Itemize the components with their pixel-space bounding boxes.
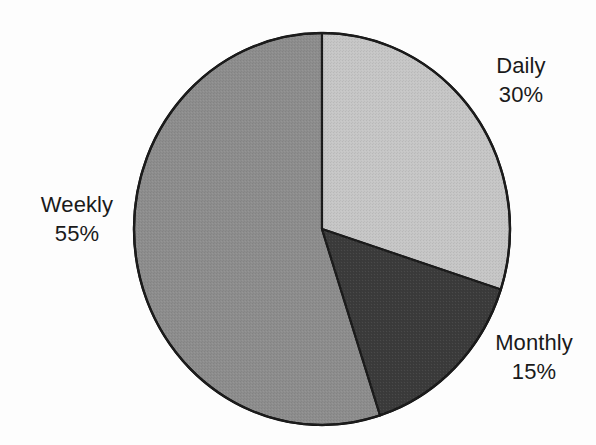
pie-label-daily-name: Daily [483, 52, 559, 81]
pie-label-daily-value: 30% [483, 81, 559, 110]
pie-label-weekly-name: Weekly [34, 191, 120, 220]
pie-label-weekly: Weekly 55% [34, 191, 120, 248]
pie-label-monthly-name: Monthly [486, 329, 582, 358]
pie-label-weekly-value: 55% [34, 220, 120, 249]
pie-label-monthly: Monthly 15% [486, 329, 582, 386]
pie-label-daily: Daily 30% [483, 52, 559, 109]
pie-chart-figure: Daily 30% Weekly 55% Monthly 15% [0, 0, 596, 445]
pie-label-monthly-value: 15% [486, 358, 582, 387]
